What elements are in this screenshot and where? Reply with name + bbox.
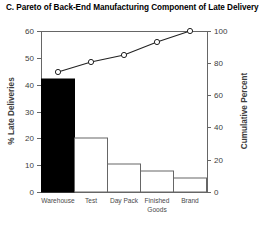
right-tick-60: 60 bbox=[214, 91, 223, 100]
left-tick-40: 40 bbox=[25, 81, 34, 90]
right-tick-40: 40 bbox=[214, 123, 223, 132]
plot-area: 60 50 40 30 20 10 0 100 80 60 40 20 0 % … bbox=[0, 0, 259, 226]
left-tick-50: 50 bbox=[25, 54, 34, 63]
cumulative-marker-day-pack bbox=[121, 52, 126, 57]
right-tick-100: 100 bbox=[214, 27, 228, 36]
bar-finished-goods bbox=[141, 171, 174, 192]
cumulative-marker-brand bbox=[187, 28, 192, 33]
bar-test bbox=[75, 138, 108, 192]
bar-warehouse bbox=[42, 79, 75, 192]
bar-brand bbox=[174, 178, 207, 192]
cat-label-warehouse: Warehouse bbox=[41, 197, 75, 204]
left-axis-tick-labels: 60 50 40 30 20 10 0 bbox=[25, 27, 34, 197]
category-axis-labels: Warehouse Test Day Pack Finished Goods B… bbox=[41, 197, 199, 213]
cumulative-marker-warehouse bbox=[55, 69, 60, 74]
cat-label-finished-goods-line2: Goods bbox=[147, 206, 167, 213]
cat-label-brand: Brand bbox=[181, 197, 199, 204]
right-axis-ticks bbox=[207, 31, 211, 192]
right-tick-20: 20 bbox=[214, 156, 223, 165]
left-axis-title: % Late Deliveries bbox=[7, 77, 16, 145]
right-tick-80: 80 bbox=[214, 59, 223, 68]
left-tick-60: 60 bbox=[25, 27, 34, 36]
right-tick-0: 0 bbox=[214, 188, 219, 197]
cumulative-markers bbox=[55, 28, 192, 74]
bar-day-pack bbox=[108, 164, 141, 192]
cat-label-finished-goods: Finished bbox=[145, 197, 170, 204]
left-tick-20: 20 bbox=[25, 134, 34, 143]
left-tick-0: 0 bbox=[30, 188, 35, 197]
cumulative-line bbox=[58, 31, 190, 72]
left-tick-30: 30 bbox=[25, 108, 34, 117]
left-axis-ticks bbox=[37, 31, 41, 192]
cat-label-day-pack: Day Pack bbox=[110, 197, 139, 205]
left-tick-10: 10 bbox=[25, 161, 34, 170]
cumulative-marker-finished-goods bbox=[154, 39, 159, 44]
bar-series bbox=[42, 79, 207, 192]
cumulative-marker-test bbox=[88, 59, 93, 64]
pareto-chart-figure: C. Pareto of Back-End Manufacturing Comp… bbox=[0, 0, 259, 226]
cat-label-test: Test bbox=[85, 197, 97, 204]
right-axis-title: Cumulative Percent bbox=[240, 73, 249, 150]
right-axis-tick-labels: 100 80 60 40 20 0 bbox=[214, 27, 228, 197]
